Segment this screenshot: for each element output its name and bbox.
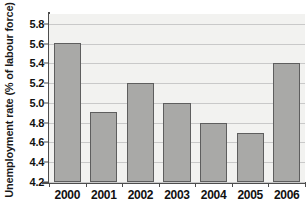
bar-2002: [127, 83, 154, 182]
bar-2000: [54, 43, 81, 182]
y-axis-tick-mark: [44, 23, 49, 24]
bar-2001: [90, 112, 117, 182]
x-axis-tick-label: 2005: [237, 188, 263, 202]
x-axis-tick-label: 2001: [91, 188, 117, 202]
x-axis-tick-mark: [122, 183, 123, 187]
x-axis-tick-label: 2003: [164, 188, 190, 202]
y-axis-tick-label: 5.6: [16, 38, 44, 50]
bar-2003: [163, 103, 190, 182]
x-axis-tick-label: 2006: [274, 188, 300, 202]
x-axis-tick-label: 2000: [55, 188, 81, 202]
x-axis-tick-label: 2002: [128, 188, 154, 202]
y-axis-tick-mark: [44, 142, 49, 143]
y-axis-tick-label: 4.4: [16, 156, 44, 168]
x-axis-tick-mark: [268, 183, 269, 187]
y-axis-tick-label: 4.8: [16, 117, 44, 129]
y-axis-tick-mark: [44, 63, 49, 64]
bar-2006: [273, 63, 300, 182]
y-axis-tick-mark: [44, 43, 49, 44]
bar-2004: [200, 123, 227, 182]
gridline: [49, 182, 305, 183]
x-axis-tick-mark: [159, 183, 160, 187]
bar-chart: Unemployment rate (% of labour force) 5.…: [0, 0, 306, 213]
y-axis-tick-label: 4.2: [16, 176, 44, 188]
y-axis-tick-label: 5.4: [16, 57, 44, 69]
y-axis-tick-label: 5.2: [16, 77, 44, 89]
y-axis-tick-mark: [44, 102, 49, 103]
x-axis-tick-mark: [232, 183, 233, 187]
bar-2005: [237, 133, 264, 182]
x-axis-tick-mark: [86, 183, 87, 187]
y-axis-tick-mark: [44, 83, 49, 84]
y-axis-tick-label: 5.0: [16, 97, 44, 109]
y-axis-tick-mark: [44, 162, 49, 163]
x-axis-tick-mark: [195, 183, 196, 187]
y-axis-tick-mark: [44, 122, 49, 123]
y-axis-tick-label: 5.8: [16, 18, 44, 30]
bars-group: [49, 14, 305, 182]
y-axis-tick-label: 4.6: [16, 136, 44, 148]
y-axis-title-text: Unemployment rate (% of labour force): [3, 2, 15, 198]
y-axis-tick-labels: 5.85.65.45.25.04.84.64.44.2: [16, 14, 44, 182]
x-axis-tick-mark: [49, 183, 50, 187]
x-axis-tick-labels: 2000200120022003200420052006: [49, 188, 305, 210]
x-axis-tick-label: 2004: [201, 188, 227, 202]
x-axis-tick-mark: [305, 183, 306, 187]
plot-area: [49, 14, 305, 182]
